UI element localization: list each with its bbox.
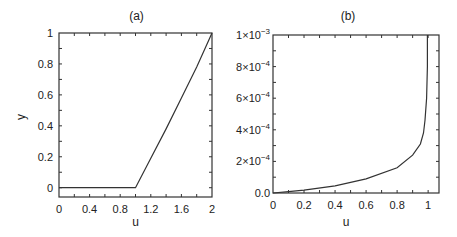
- y-tick-label: 0.4: [38, 120, 53, 132]
- panel-a: 00.40.81.21.6200.20.40.60.81(a)uy: [14, 9, 215, 229]
- panel-b: 00.20.40.60.810.02×10−44×10−46×10−48×10−…: [236, 9, 439, 229]
- x-tick-label: 0: [270, 199, 276, 211]
- x-tick-label: 0.6: [358, 199, 373, 211]
- x-tick-label: 0.8: [389, 199, 404, 211]
- x-tick-label: 2: [209, 203, 215, 215]
- x-tick-label: 1.6: [174, 203, 189, 215]
- y-tick-label: 2×10−4: [236, 153, 270, 167]
- x-tick-label: 1: [425, 199, 431, 211]
- y-tick-label: 0.2: [38, 151, 53, 163]
- y-tick-label: 0.8: [38, 58, 53, 70]
- chart-title: (b): [341, 9, 356, 23]
- y-tick-label: 6×10−4: [236, 90, 270, 104]
- y-axis-label: y: [14, 114, 28, 120]
- chart-title: (a): [129, 9, 144, 23]
- x-tick-label: 0.2: [296, 199, 311, 211]
- y-tick-label: 0.0: [255, 187, 270, 199]
- y-tick-label: 0: [47, 182, 53, 194]
- x-tick-label: 1.2: [143, 203, 158, 215]
- axes-frame: [273, 35, 439, 193]
- data-line: [59, 33, 212, 188]
- data-line: [273, 35, 427, 193]
- x-axis-label: u: [343, 215, 350, 229]
- y-tick-label: 1: [47, 27, 53, 39]
- y-tick-label: 1×10−3: [236, 27, 270, 41]
- x-tick-label: 0.8: [113, 203, 128, 215]
- x-tick-label: 0.4: [327, 199, 342, 211]
- x-tick-label: 0.4: [82, 203, 97, 215]
- x-axis-label: u: [132, 215, 139, 229]
- x-tick-label: 0: [56, 203, 62, 215]
- y-tick-label: 0.6: [38, 89, 53, 101]
- y-tick-label: 8×10−4: [236, 59, 270, 73]
- figure: 00.40.81.21.6200.20.40.60.81(a)uy00.20.4…: [0, 0, 457, 237]
- y-tick-label: 4×10−4: [236, 122, 270, 136]
- axes-frame: [59, 33, 212, 197]
